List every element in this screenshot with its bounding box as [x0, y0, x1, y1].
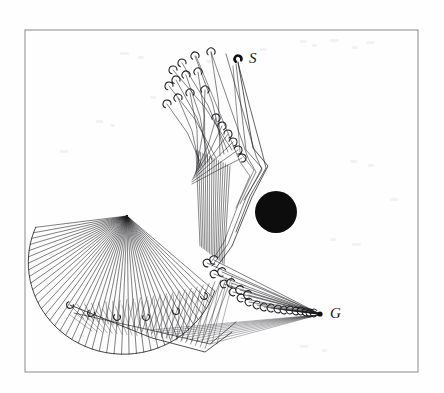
circular-obstacle [255, 191, 297, 233]
motion-planning-figure: S G [0, 0, 444, 393]
goal-node-marker [317, 311, 322, 316]
figure-canvas: S G [0, 0, 444, 393]
start-label: S [249, 50, 257, 66]
goal-label: G [330, 305, 341, 321]
